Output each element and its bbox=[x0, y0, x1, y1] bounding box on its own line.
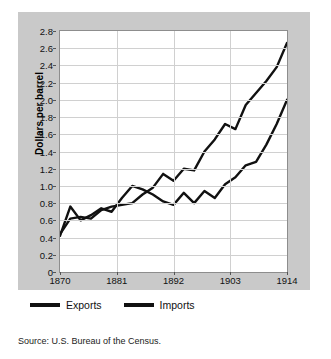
gridline-vertical bbox=[174, 31, 175, 272]
y-axis-tick bbox=[53, 48, 56, 49]
y-axis-tick-label: 0.2 bbox=[40, 249, 53, 260]
source-note: Source: U.S. Bureau of the Census. bbox=[18, 336, 161, 346]
x-axis-tick-label: 1914 bbox=[276, 275, 297, 286]
y-axis-tick bbox=[53, 255, 56, 256]
y-axis-tick-label: 0.8 bbox=[40, 198, 53, 209]
x-axis-tick bbox=[174, 272, 175, 275]
y-axis-tick-label: 1.8 bbox=[40, 112, 53, 123]
y-axis-tick bbox=[53, 65, 56, 66]
legend-item-exports: Exports bbox=[30, 299, 102, 311]
y-axis-tick-label: 1.4 bbox=[40, 146, 53, 157]
y-axis-tick-label: 2.8 bbox=[40, 26, 53, 37]
legend-swatch-exports bbox=[30, 303, 60, 307]
x-axis-tick-label: 1870 bbox=[49, 275, 70, 286]
y-axis-tick-label: 1.0 bbox=[40, 180, 53, 191]
y-axis-tick bbox=[53, 100, 56, 101]
y-axis-tick-label: 2.0 bbox=[40, 94, 53, 105]
y-axis-tick bbox=[53, 272, 56, 273]
y-axis-tick bbox=[53, 169, 56, 170]
legend-item-imports: Imports bbox=[124, 299, 195, 311]
legend-label-imports: Imports bbox=[160, 299, 195, 311]
gridline-vertical bbox=[117, 31, 118, 272]
y-axis-tick-label: 0.6 bbox=[40, 215, 53, 226]
y-axis-tick-label: 2.4 bbox=[40, 60, 53, 71]
y-axis-tick-label: 2.2 bbox=[40, 77, 53, 88]
x-axis-tick-label: 1903 bbox=[220, 275, 241, 286]
y-axis-tick-label: 2.6 bbox=[40, 43, 53, 54]
legend-label-exports: Exports bbox=[66, 299, 102, 311]
y-axis-labels: 00.20.40.60.81.01.21.41.61.82.02.22.42.6… bbox=[18, 30, 56, 273]
y-axis-tick-label: 1.6 bbox=[40, 129, 53, 140]
y-axis-tick-label: 1.2 bbox=[40, 163, 53, 174]
y-axis-tick bbox=[53, 31, 56, 32]
y-axis-tick bbox=[53, 117, 56, 118]
x-axis-tick-label: 1881 bbox=[106, 275, 127, 286]
gridline-vertical bbox=[230, 31, 231, 272]
x-axis-tick bbox=[230, 272, 231, 275]
x-axis-tick bbox=[117, 272, 118, 275]
legend-items: Exports Imports bbox=[30, 299, 217, 311]
chart-legend: Exports Imports bbox=[18, 290, 310, 322]
y-axis-tick bbox=[53, 203, 56, 204]
y-axis-tick bbox=[53, 152, 56, 153]
y-axis-tick bbox=[53, 134, 56, 135]
y-axis-tick bbox=[53, 186, 56, 187]
x-axis-tick-label: 1892 bbox=[163, 275, 184, 286]
legend-swatch-imports bbox=[124, 303, 154, 307]
x-axis-tick bbox=[287, 272, 288, 275]
plot-area bbox=[59, 30, 288, 273]
figure-panel: Dollars per barrel 00.20.40.60.81.01.21.… bbox=[18, 12, 310, 290]
y-axis-tick bbox=[53, 220, 56, 221]
x-axis-tick bbox=[60, 272, 61, 275]
cut-off-text-line bbox=[18, 0, 310, 11]
y-axis-tick-label: 0.4 bbox=[40, 232, 53, 243]
y-axis-tick bbox=[53, 238, 56, 239]
y-axis-tick bbox=[53, 83, 56, 84]
